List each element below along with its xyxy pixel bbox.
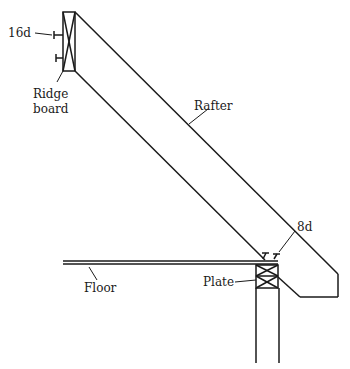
label-16d: 16d <box>8 26 31 40</box>
label-floor: Floor <box>84 281 116 295</box>
wall-stud <box>256 288 279 363</box>
framing-diagram <box>0 0 350 369</box>
ridge-board <box>63 12 75 71</box>
rafter <box>75 12 338 297</box>
label-rafter: Rafter <box>194 99 233 113</box>
nail-8d-icon <box>262 253 280 259</box>
label-plate: Plate <box>203 275 234 289</box>
top-plate <box>256 265 278 288</box>
label-8d: 8d <box>297 220 312 234</box>
label-board: board <box>33 102 68 116</box>
floor <box>63 261 278 264</box>
label-ridge: Ridge <box>33 87 68 101</box>
nail-16d-icon <box>54 31 63 62</box>
